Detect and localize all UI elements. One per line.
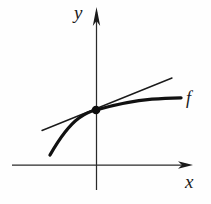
x-axis-label: x: [185, 172, 193, 191]
tangent-line-figure: y x f: [0, 0, 211, 204]
point-marker-icon: [92, 106, 101, 115]
figure-canvas: [0, 0, 211, 204]
function-curve-f: [50, 98, 181, 155]
y-axis-label: y: [74, 3, 82, 22]
function-label: f: [186, 89, 191, 107]
tangent-line: [42, 78, 172, 131]
